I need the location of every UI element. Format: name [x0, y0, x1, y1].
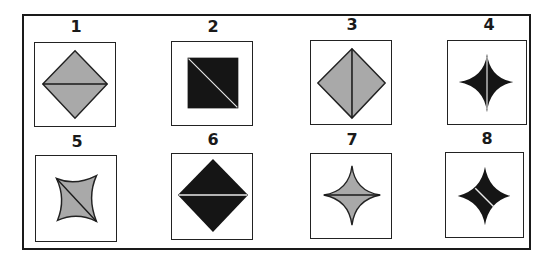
black-star-vertical-icon [448, 41, 526, 124]
figure-box [171, 41, 253, 126]
figure-label: 2 [171, 18, 255, 36]
figure-box [171, 153, 253, 240]
figure-box [310, 153, 392, 239]
gray-star-horizontal-icon [311, 154, 391, 238]
figure-label: 3 [310, 16, 394, 34]
figure-5[interactable]: 5 [35, 133, 119, 245]
figure-8[interactable]: 8 [445, 130, 529, 242]
figure-box [310, 40, 392, 125]
figure-3[interactable]: 3 [310, 16, 394, 128]
figure-label: 8 [445, 130, 529, 148]
figure-6[interactable]: 6 [171, 131, 255, 243]
figure-2[interactable]: 2 [171, 18, 255, 130]
black-star-diagonal-icon [446, 153, 523, 237]
figure-label: 4 [447, 16, 531, 34]
gray-diamond-horizontal-icon [35, 43, 115, 126]
gray-concave-square-diagonal-icon [36, 156, 116, 241]
black-diamond-horizontal-icon [172, 154, 252, 239]
figure-7[interactable]: 7 [310, 131, 394, 243]
figure-box [445, 152, 524, 238]
figure-label: 7 [310, 131, 394, 149]
figure-box [447, 40, 527, 125]
gray-diamond-vertical-icon [311, 41, 391, 124]
figure-1[interactable]: 1 [34, 18, 118, 130]
figure-label: 6 [171, 131, 255, 149]
figure-label: 5 [35, 133, 119, 151]
figure-box [34, 42, 116, 127]
black-square-diagonal-icon [172, 42, 252, 125]
figure-box [35, 155, 117, 242]
figure-label: 1 [34, 18, 118, 36]
figure-4[interactable]: 4 [447, 16, 531, 128]
